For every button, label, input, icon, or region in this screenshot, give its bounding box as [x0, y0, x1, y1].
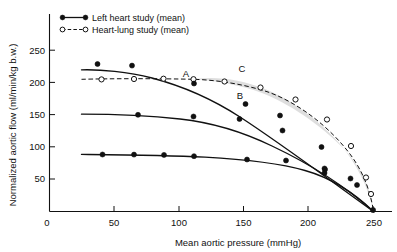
x-axis-title: Mean aortic pressure (mmHg) — [175, 237, 301, 248]
data-point-open — [293, 97, 298, 102]
data-point-filled — [348, 176, 353, 181]
x-tick-label-0: 0 — [44, 217, 49, 228]
data-point-filled — [284, 158, 289, 163]
x-tick-marks — [114, 206, 373, 212]
curve-left-heart-high — [82, 70, 374, 212]
legend-marker-open-circle-icon — [83, 27, 88, 32]
data-point-filled — [132, 152, 137, 157]
legend-label-heart-lung: Heart-lung study (mean) — [92, 25, 189, 35]
data-point-filled — [162, 152, 167, 157]
legend-marker-filled-circle-icon — [83, 15, 88, 20]
data-point-filled — [237, 117, 242, 122]
legend-entry-left-heart: Left heart study (mean) — [60, 13, 185, 23]
data-point-filled — [100, 152, 105, 157]
data-point-open — [131, 76, 136, 81]
shaded-region — [194, 78, 374, 211]
annotation-a: A — [183, 68, 190, 79]
x-tick-label-250: 250 — [366, 217, 382, 228]
data-point-filled — [95, 62, 100, 67]
y-tick-label-100: 100 — [29, 141, 45, 152]
data-point-open — [99, 77, 104, 82]
data-point-filled — [130, 63, 135, 68]
curve-left-heart-low — [82, 154, 374, 211]
legend-label-left-heart: Left heart study (mean) — [92, 13, 185, 23]
data-point-filled — [355, 183, 360, 188]
y-tick-label-50: 50 — [34, 173, 45, 184]
figure-container: 250 200 150 100 50 0 50 100 150 200 250 … — [0, 0, 397, 252]
data-point-filled — [192, 154, 197, 159]
y-tick-label-200: 200 — [29, 77, 45, 88]
data-point-open — [161, 76, 166, 81]
legend-marker-open-circle-icon — [60, 27, 65, 32]
y-tick-label-150: 150 — [29, 109, 45, 120]
x-tick-label-200: 200 — [300, 217, 316, 228]
y-tick-labels: 250 200 150 100 50 — [29, 45, 45, 185]
y-tick-marks — [50, 50, 56, 179]
annotation-b: B — [237, 90, 243, 101]
data-point-filled — [280, 128, 285, 133]
data-point-filled — [191, 114, 196, 119]
data-point-filled — [319, 145, 324, 150]
x-tick-label-150: 150 — [236, 217, 252, 228]
y-axis-title: Normalized aortic flow (ml/min/kg b.w.) — [7, 44, 18, 207]
curve-heart-lung-study — [82, 79, 374, 212]
data-point-filled — [243, 102, 248, 107]
x-tick-label-100: 100 — [171, 217, 187, 228]
annotation-c: C — [239, 63, 246, 74]
y-tick-label-250: 250 — [29, 45, 45, 56]
data-point-filled — [192, 81, 197, 86]
curve-left-heart-mid — [82, 114, 374, 211]
chart-canvas: 250 200 150 100 50 0 50 100 150 200 250 … — [0, 0, 397, 252]
data-point-filled — [322, 171, 327, 176]
data-point-open — [368, 191, 373, 196]
data-point-open — [258, 85, 263, 90]
legend: Left heart study (mean) Heart-lung study… — [60, 13, 189, 35]
markers-left-heart-low — [100, 152, 327, 176]
data-point-filled — [136, 112, 141, 117]
data-point-filled — [245, 157, 250, 162]
data-point-open — [348, 143, 353, 148]
data-point-open — [363, 175, 368, 180]
data-point-filled — [370, 207, 375, 212]
legend-entry-heart-lung: Heart-lung study (mean) — [60, 25, 189, 35]
x-tick-labels: 0 50 100 150 200 250 — [44, 217, 382, 228]
x-tick-label-50: 50 — [109, 217, 120, 228]
legend-marker-filled-circle-icon — [60, 15, 65, 20]
data-point-filled — [278, 113, 283, 118]
data-point-open — [222, 79, 227, 84]
data-point-open — [324, 117, 329, 122]
